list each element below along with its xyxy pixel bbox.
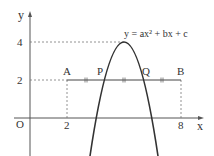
origin-label: O — [16, 118, 24, 130]
x-axis-label: x — [197, 119, 203, 133]
equation-label: y = ax² + bx + c — [124, 28, 188, 39]
y-axis-arrow-icon — [28, 11, 32, 17]
point-label-a: A — [63, 65, 71, 77]
point-label-p: P — [97, 65, 103, 77]
point-label-b: B — [177, 65, 184, 77]
y-tick-2: 2 — [17, 74, 23, 86]
point-label-q: Q — [142, 65, 150, 77]
x-tick-8: 8 — [178, 119, 184, 131]
y-tick-4: 4 — [17, 36, 23, 48]
x-tick-2: 2 — [64, 119, 70, 131]
diagram: y x O 4 2 2 8 A P Q B y = ax² + bx + c — [0, 0, 214, 156]
parabola-curve — [90, 42, 158, 156]
y-axis-label: y — [18, 8, 24, 22]
